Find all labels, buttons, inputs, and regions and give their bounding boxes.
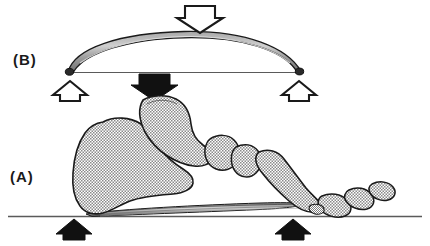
figure-container: (B) (A) xyxy=(0,0,430,246)
elastic-bow-body xyxy=(68,31,301,72)
bow-right-tip xyxy=(295,68,303,75)
figure-canvas xyxy=(0,0,430,246)
reaction-arrow-bow-left-outline-icon xyxy=(53,81,87,101)
reaction-arrow-foot-forefoot-solid-icon xyxy=(275,219,311,240)
bow-left-tip xyxy=(65,68,73,75)
panel-label-b: (B) xyxy=(13,51,37,68)
panel-b-group xyxy=(53,6,316,101)
load-arrow-bow-outline-icon xyxy=(177,6,223,33)
bone-sesamoid xyxy=(309,204,324,214)
reaction-arrow-foot-heel-solid-icon xyxy=(56,219,92,240)
panel-label-a: (A) xyxy=(10,168,34,185)
reaction-arrow-bow-right-outline-icon xyxy=(282,81,316,101)
